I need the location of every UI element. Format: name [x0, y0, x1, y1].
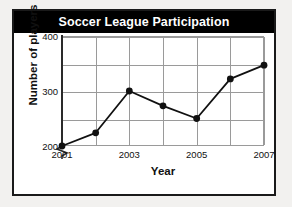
x-tick-label: 2003 [119, 149, 140, 160]
chart-title: Soccer League Participation [59, 15, 230, 29]
x-tick-label: 2007 [253, 149, 274, 160]
data-point-marker [92, 129, 99, 136]
x-tick-label: 2005 [186, 149, 207, 160]
x-axis-title: Year [62, 165, 264, 177]
chart-figure: Soccer League Participation 400300200 Ye… [12, 9, 276, 196]
data-point-marker [227, 76, 234, 83]
data-point-marker [193, 115, 200, 122]
data-point-marker [160, 102, 167, 109]
y-axis-title: Number of players [27, 0, 39, 112]
data-point-marker [126, 88, 133, 95]
data-point-marker [261, 62, 268, 69]
gridline-vertical [264, 37, 265, 145]
x-tick-label: 2001 [51, 149, 72, 160]
data-series [62, 36, 264, 146]
